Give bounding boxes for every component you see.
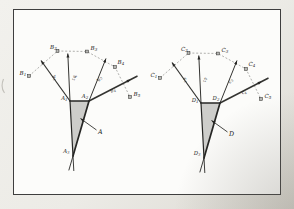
ray-arrowhead <box>197 56 200 60</box>
side-extension <box>200 158 204 172</box>
scan-artifact <box>2 79 4 93</box>
ray-label: b3 <box>96 76 104 83</box>
point-label: C2 <box>181 46 188 53</box>
vertex-label: D2 <box>212 95 220 102</box>
point-label: B4 <box>117 59 125 66</box>
vertex-label: D3 <box>193 150 201 157</box>
side-extension <box>69 156 73 170</box>
geometry-diagram: b1b2b3b4B1B2B3B4B5A1A2A3Ac1c2c3c4C1C2C3C… <box>0 0 294 209</box>
ray-label: c2 <box>202 77 209 82</box>
point-label: C1 <box>151 72 158 79</box>
position-marker <box>245 68 248 71</box>
position-marker <box>159 77 162 80</box>
rotation-ray <box>172 63 201 104</box>
position-marker <box>260 98 263 101</box>
point-label: B2 <box>49 44 57 51</box>
side-extension <box>204 158 205 173</box>
region-label: D <box>228 130 234 138</box>
point-label: B3 <box>90 45 98 52</box>
diagram-left: b1b2b3b4B1B2B3B4B5A1A2A3A <box>19 44 141 171</box>
point-label: C4 <box>249 61 256 68</box>
point-label: C3 <box>222 47 229 54</box>
position-marker <box>114 66 117 69</box>
diagram-right: c1c2c3c4C1C2C3C4C5D1D2D3D <box>151 46 272 173</box>
ray-arrowhead <box>234 61 237 65</box>
scanned-figure-page: b1b2b3b4B1B2B3B4B5A1A2A3Ac1c2c3c4C1C2C3C… <box>0 0 294 209</box>
point-label: B5 <box>133 91 141 98</box>
position-marker <box>28 75 31 78</box>
ray-arrowhead <box>66 54 69 58</box>
rotation-ray <box>41 61 70 102</box>
rotation-ray <box>199 56 201 104</box>
side-extension <box>73 156 74 171</box>
region-label: A <box>97 128 103 136</box>
position-marker <box>129 96 132 99</box>
point-label: C5 <box>265 93 272 100</box>
ray-label: b2 <box>71 75 78 81</box>
ray-label: c3 <box>227 78 235 85</box>
point-label: B1 <box>19 70 27 77</box>
position-marker <box>86 50 89 53</box>
vertex-label: A2 <box>81 93 89 100</box>
rotation-ray <box>68 54 70 102</box>
position-marker <box>217 52 220 55</box>
vertex-label: A3 <box>62 148 70 155</box>
ray-arrowhead <box>103 59 106 63</box>
